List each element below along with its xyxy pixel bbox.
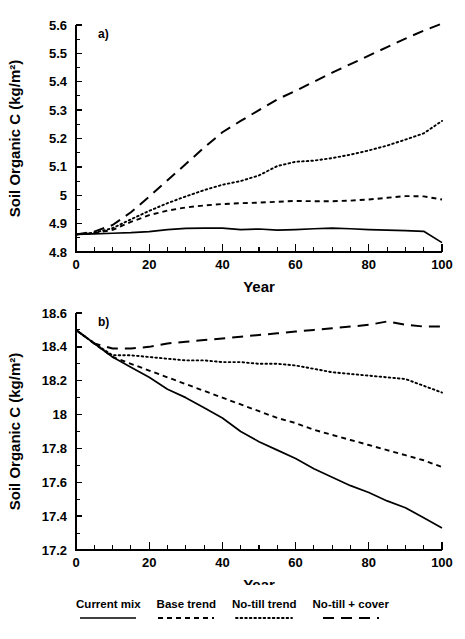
y-axis-title: Soil Organic C (kg/m²) xyxy=(6,60,23,218)
legend-label: No-till + cover xyxy=(313,598,389,611)
x-tick-label: 20 xyxy=(142,257,156,272)
y-tick-label: 18.6 xyxy=(42,306,67,321)
legend-item-dash: Base trend xyxy=(157,598,216,621)
y-tick-label: 4.8 xyxy=(49,245,67,260)
legend-line-sample-longdash xyxy=(322,615,380,621)
series-line-solid xyxy=(76,228,442,242)
legend-item-dot: No-till trend xyxy=(232,598,297,621)
y-tick-label: 17.4 xyxy=(42,509,68,524)
series-line-longdash xyxy=(76,321,442,348)
x-tick-label: 80 xyxy=(362,555,376,570)
y-tick-label: 5.6 xyxy=(49,18,67,33)
panel-tag: a) xyxy=(98,27,109,41)
y-tick-label: 18 xyxy=(53,407,67,422)
x-tick-label: 100 xyxy=(431,257,453,272)
legend-line-sample-dot xyxy=(235,615,293,621)
x-tick-label: 60 xyxy=(288,555,302,570)
x-tick-label: 20 xyxy=(142,555,156,570)
legend-line-sample-solid xyxy=(79,615,137,621)
y-tick-label: 5.3 xyxy=(49,103,67,118)
y-tick-label: 18.4 xyxy=(42,339,68,354)
series-line-dash xyxy=(76,330,442,467)
chart-legend: Current mixBase trendNo-till trendNo-til… xyxy=(0,596,465,639)
y-tick-label: 17.2 xyxy=(42,543,67,558)
chart-panel-a: 4.84.955.15.25.35.45.55.6020406080100a)Y… xyxy=(0,0,465,300)
panel-tag: b) xyxy=(98,315,109,329)
y-tick-label: 17.8 xyxy=(42,441,67,456)
x-tick-label: 100 xyxy=(431,555,453,570)
chart-panel-b: 17.217.417.617.81818.218.418.60204060801… xyxy=(0,295,465,585)
series-line-dot xyxy=(76,330,442,393)
x-tick-label: 40 xyxy=(215,257,229,272)
y-tick-label: 5.1 xyxy=(49,159,67,174)
y-tick-label: 18.2 xyxy=(42,373,67,388)
y-tick-label: 4.9 xyxy=(49,216,67,231)
x-tick-label: 60 xyxy=(288,257,302,272)
x-tick-label: 0 xyxy=(72,257,79,272)
legend-row: Current mixBase trendNo-till trendNo-til… xyxy=(0,596,465,621)
figure-container: 4.84.955.15.25.35.45.55.6020406080100a)Y… xyxy=(0,0,465,639)
y-tick-label: 17.6 xyxy=(42,475,67,490)
legend-line-sample-dash xyxy=(157,615,215,621)
y-tick-label: 5.2 xyxy=(49,131,67,146)
y-tick-label: 5.4 xyxy=(49,74,68,89)
legend-item-solid: Current mix xyxy=(76,598,141,621)
x-axis-title: Year xyxy=(243,278,275,295)
axis-lines xyxy=(76,25,442,252)
series-line-dot xyxy=(76,121,442,235)
y-tick-label: 5 xyxy=(60,188,67,203)
series-line-longdash xyxy=(76,24,442,235)
legend-label: No-till trend xyxy=(232,598,297,611)
x-axis-title: Year xyxy=(243,576,275,585)
x-tick-label: 0 xyxy=(72,555,79,570)
series-line-solid xyxy=(76,330,442,528)
x-tick-label: 80 xyxy=(362,257,376,272)
x-tick-label: 40 xyxy=(215,555,229,570)
legend-item-longdash: No-till + cover xyxy=(313,598,389,621)
y-tick-label: 5.5 xyxy=(49,46,67,61)
y-axis-title: Soil Organic C (kg/m²) xyxy=(6,353,23,511)
legend-label: Current mix xyxy=(76,598,141,611)
legend-label: Base trend xyxy=(157,598,216,611)
